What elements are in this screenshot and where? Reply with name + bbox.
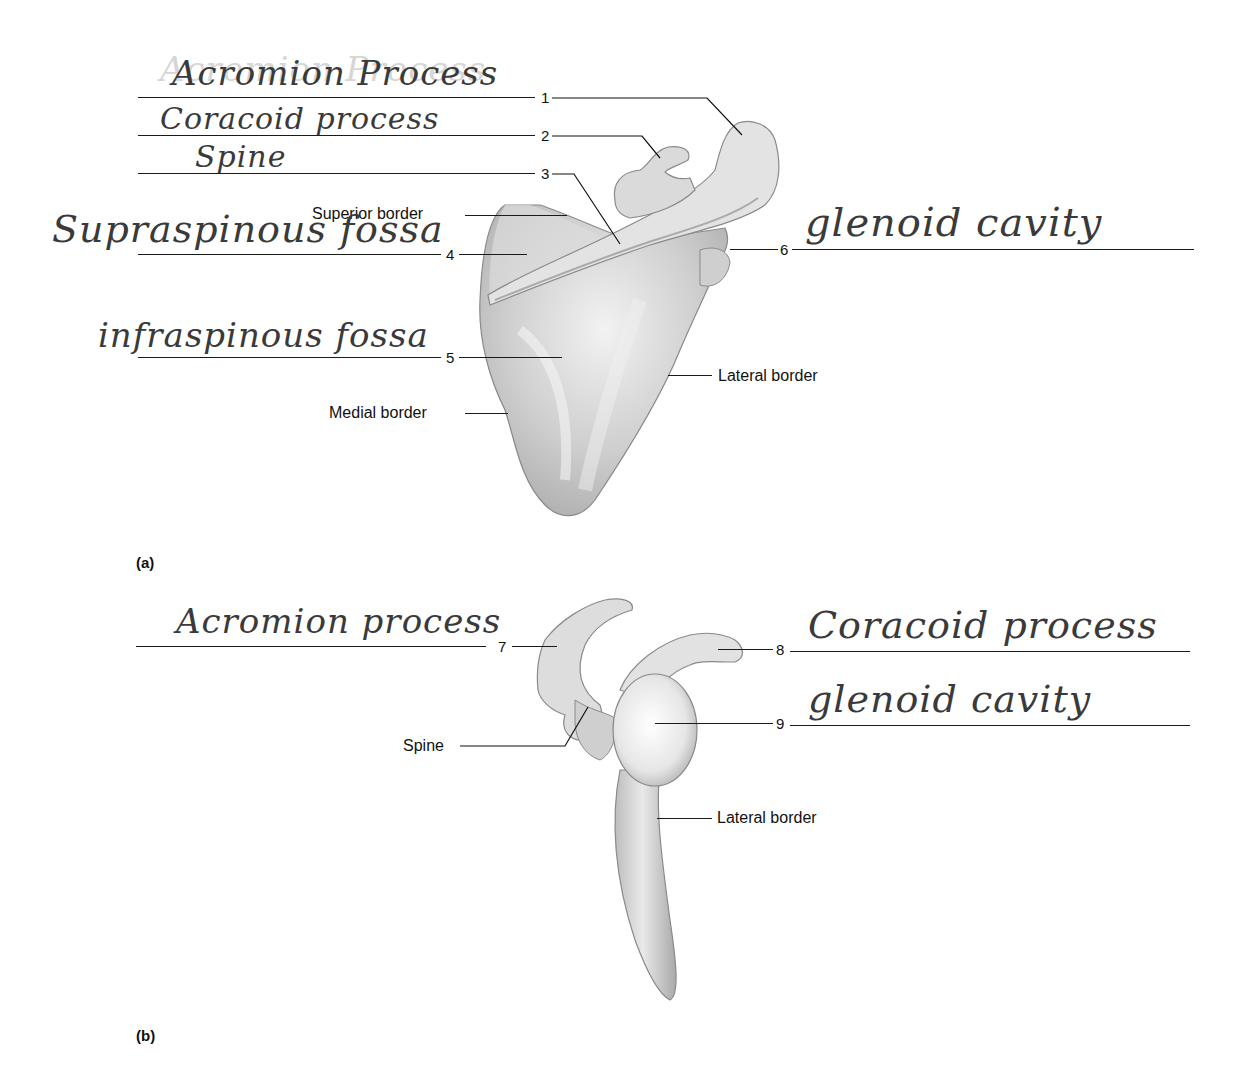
leader-line-8	[718, 649, 773, 650]
lateral-border-label-b: Lateral border	[717, 810, 817, 826]
answer-text-4[interactable]: Supraspinous fossa	[52, 210, 444, 248]
leader-line-5	[459, 357, 562, 358]
answer-text-1[interactable]: Acromion Process	[172, 56, 498, 90]
medial-border-label: Medial border	[329, 405, 427, 421]
label-number-5: 5	[446, 350, 454, 365]
spine-label: Spine	[403, 738, 444, 754]
answer-text-5[interactable]: infraspinous fossa	[98, 318, 429, 352]
leader-line-9	[655, 723, 773, 724]
leader-line-7	[512, 646, 557, 647]
label-number-1: 1	[541, 90, 549, 105]
superior-border-leader	[465, 215, 567, 216]
answer-line-7	[136, 646, 486, 647]
label-number-4: 4	[446, 247, 454, 262]
label-number-6: 6	[780, 242, 788, 257]
panel-label-a: (a)	[136, 554, 154, 571]
medial-border-leader	[465, 413, 508, 414]
label-number-8: 8	[776, 642, 784, 657]
answer-line-1	[138, 97, 535, 98]
label-number-7: 7	[498, 639, 506, 654]
answer-text-6[interactable]: glenoid cavity	[805, 202, 1102, 242]
leader-line-4	[459, 254, 527, 255]
answer-text-2[interactable]: Coracoid process	[160, 104, 439, 134]
answer-line-6	[792, 249, 1194, 250]
answer-text-8[interactable]: Coracoid process	[808, 606, 1158, 644]
panel-label-b: (b)	[136, 1027, 155, 1044]
lateral-border-leader-a	[668, 375, 712, 376]
label-number-3: 3	[541, 166, 549, 181]
leader-line-6	[730, 249, 778, 250]
label-number-2: 2	[541, 128, 549, 143]
answer-text-7[interactable]: Acromion process	[176, 604, 501, 638]
lateral-border-leader-b	[657, 818, 712, 819]
leader-line-3	[552, 171, 632, 251]
scapula-lateral-view	[537, 599, 742, 1000]
answer-line-5	[138, 357, 441, 358]
spine-leader	[460, 705, 590, 750]
leader-line-2	[552, 133, 672, 163]
answer-text-3[interactable]: Spine	[195, 142, 286, 172]
answer-line-9	[790, 725, 1190, 726]
answer-line-4	[138, 254, 441, 255]
answer-line-8	[790, 651, 1190, 652]
answer-text-9[interactable]: glenoid cavity	[808, 680, 1091, 718]
lateral-border-label-a: Lateral border	[718, 368, 818, 384]
label-number-9: 9	[776, 716, 784, 731]
